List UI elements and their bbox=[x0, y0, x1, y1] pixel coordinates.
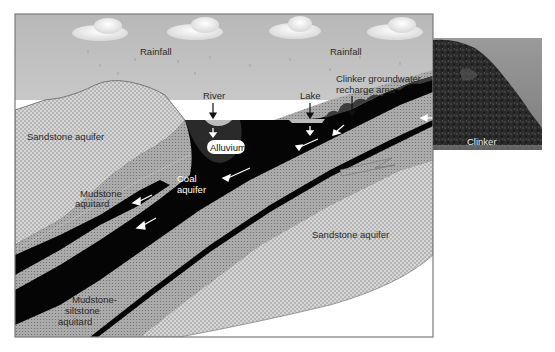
clinker-photo-caption: Clinker bbox=[467, 136, 497, 147]
hydrogeology-figure: Rainfall Rainfall River Lake Clinker gro… bbox=[0, 0, 555, 352]
sandstone-aquifer-lower-label: Sandstone aquifer bbox=[312, 229, 389, 240]
lake-surface bbox=[288, 119, 325, 123]
mudstone-siltstone-label-line2: siltstone bbox=[65, 305, 100, 316]
cross-section-diagram: Rainfall Rainfall River Lake Clinker gro… bbox=[0, 0, 555, 352]
river-label: River bbox=[203, 90, 225, 101]
rainfall-right-label: Rainfall bbox=[330, 46, 362, 57]
coal-aquifer-label-line2: aquifer bbox=[177, 184, 206, 195]
clinker-photo: Clinker bbox=[433, 38, 542, 150]
mudstone-siltstone-label-line1: Mudstone- bbox=[72, 294, 117, 305]
mudstone-siltstone-label-line3: aquitard bbox=[58, 316, 92, 327]
mudstone-aquitard-label-line2: aquitard bbox=[75, 198, 109, 209]
clinker-recharge-label-line1: Clinker groundwater bbox=[336, 73, 421, 84]
rainfall-left-label: Rainfall bbox=[140, 46, 172, 57]
lake-label: Lake bbox=[300, 90, 321, 101]
coal-aquifer-label-line1: Coal bbox=[177, 173, 197, 184]
diagram-body: Rainfall Rainfall River Lake Clinker gro… bbox=[15, 14, 441, 337]
clinker-recharge-label-line2: recharge area bbox=[336, 84, 396, 95]
alluvium-label: Alluvium bbox=[210, 142, 246, 153]
sandstone-aquifer-upper-label: Sandstone aquifer bbox=[27, 131, 104, 142]
